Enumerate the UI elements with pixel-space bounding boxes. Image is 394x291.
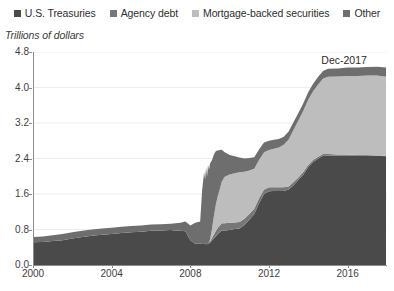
area-series-svg xyxy=(33,52,387,265)
y-tick-label: 3.2 xyxy=(0,118,29,128)
y-axis-unit-caption: Trillions of dollars xyxy=(5,29,84,41)
y-tick-label: 4.8 xyxy=(0,47,29,57)
x-tick-label: 2012 xyxy=(258,268,280,280)
y-tick-label: 0.8 xyxy=(0,225,29,235)
y-tick-label: 2.4 xyxy=(0,154,29,164)
y-tick-mark xyxy=(29,265,32,266)
x-tick-label: 2008 xyxy=(179,268,201,280)
x-tick-mark xyxy=(33,265,34,268)
y-tick-mark xyxy=(29,194,32,195)
stacked-area-chart: U.S. TreasuriesAgency debtMortgage-backe… xyxy=(0,0,394,291)
x-axis-line xyxy=(33,265,387,266)
dec-2017-annotation: Dec-2017 xyxy=(321,54,367,66)
x-tick-mark xyxy=(190,265,191,268)
legend-item-label: U.S. Treasuries xyxy=(25,7,96,19)
legend-swatch-icon xyxy=(192,10,199,17)
y-tick-mark xyxy=(29,159,32,160)
legend-item-other[interactable]: Other xyxy=(343,7,380,19)
plot-canvas xyxy=(33,52,387,265)
y-tick-mark xyxy=(29,230,32,231)
legend-swatch-icon xyxy=(14,10,21,17)
legend-item-label: Mortgage-backed securities xyxy=(203,7,329,19)
legend-item-mortgage_backed_securities[interactable]: Mortgage-backed securities xyxy=(192,7,329,19)
plot-area xyxy=(33,52,387,265)
x-tick-mark xyxy=(269,265,270,268)
y-tick-mark xyxy=(29,123,32,124)
chart-legend: U.S. TreasuriesAgency debtMortgage-backe… xyxy=(0,4,394,22)
legend-item-label: Other xyxy=(354,7,380,19)
y-tick-label: 1.6 xyxy=(0,189,29,199)
legend-item-us_treasuries[interactable]: U.S. Treasuries xyxy=(14,7,96,19)
x-tick-label: 2016 xyxy=(337,268,359,280)
y-tick-mark xyxy=(29,52,32,53)
x-tick-mark xyxy=(348,265,349,268)
x-tick-label: 2004 xyxy=(101,268,123,280)
x-axis-labels: 20002004200820122016 xyxy=(33,268,387,284)
y-tick-mark xyxy=(29,88,32,89)
legend-item-label: Agency debt xyxy=(121,7,178,19)
legend-swatch-icon xyxy=(343,10,350,17)
legend-item-agency_debt[interactable]: Agency debt xyxy=(110,7,178,19)
x-tick-mark xyxy=(112,265,113,268)
y-tick-label: 4.0 xyxy=(0,83,29,93)
y-axis-line xyxy=(33,52,34,266)
y-axis-labels: 0.00.81.62.43.24.04.8 xyxy=(0,52,29,265)
x-tick-label: 2000 xyxy=(22,268,44,280)
legend-swatch-icon xyxy=(110,10,117,17)
